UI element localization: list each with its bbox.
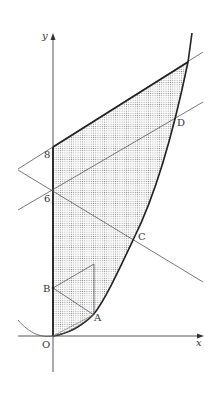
point-label-B: B — [43, 283, 50, 294]
point-label-C: C — [138, 231, 146, 242]
origin-label: O — [42, 339, 50, 350]
y-axis-arrow-icon — [51, 33, 56, 40]
y-axis-label: y — [41, 30, 48, 41]
tick-label-6: 6 — [44, 193, 50, 204]
shaded-region — [53, 62, 188, 336]
tick-label-8: 8 — [44, 149, 50, 160]
point-label-A: A — [93, 312, 102, 323]
geometry-diagram: y x O 8 6 B A C D — [0, 0, 222, 397]
point-label-D: D — [177, 117, 185, 128]
x-axis-label: x — [196, 337, 202, 348]
point-B-marker — [52, 287, 55, 290]
